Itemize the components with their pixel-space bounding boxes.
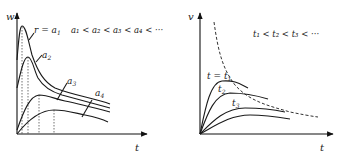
t-axis-label-right: t [320, 142, 325, 153]
leader-a4 [82, 100, 92, 117]
t-axis-label: t [135, 142, 140, 153]
curve-label-a3: a3 [67, 76, 76, 87]
curve-label-t2: t2 [218, 84, 226, 95]
v-axis-label: v [188, 11, 194, 22]
ordering-note-t: t₁ < t₂ < t₃ < ··· [253, 29, 319, 39]
right-diagram: v t t = t1 t2 t3 t₁ < t₂ < t₃ < ··· [188, 11, 333, 153]
curve-label-t3: t3 [232, 98, 240, 109]
curve-t3 [200, 108, 285, 134]
left-diagram: w t r = a1 a2 a3 a4 a₁ < a₂ < a₃ < a₄ < … [6, 11, 163, 153]
curve-a4 [17, 110, 108, 134]
curve-a3 [17, 95, 110, 130]
curve-label-a1: r = a1 [34, 25, 61, 36]
figure: w t r = a1 a2 a3 a4 a₁ < a₂ < a₃ < a₄ < … [0, 0, 342, 155]
curve-label-a4: a4 [95, 88, 104, 99]
w-axis-label: w [6, 11, 15, 22]
curve-label-a2: a2 [42, 50, 51, 61]
ordering-note-a: a₁ < a₂ < a₃ < a₄ < ··· [71, 25, 163, 35]
curve-t4 [200, 115, 290, 134]
